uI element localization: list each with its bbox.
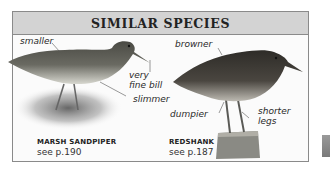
annotation-slimmer: slimmer <box>133 94 169 104</box>
annotation-legs: legs <box>258 116 276 126</box>
annotation-very: very <box>129 70 149 80</box>
species-name-redshank: REDSHANK <box>169 138 214 146</box>
page-reference-redshank: see p.187 <box>169 147 213 157</box>
annotation-smaller: smaller <box>20 36 53 46</box>
species-name-marsh-sandpiper: MARSH SANDPIPER <box>37 138 116 146</box>
annotation-browner: browner <box>175 39 212 49</box>
annotation-shorter: shorter <box>258 106 290 116</box>
annotation-dumpier: dumpier <box>170 109 208 119</box>
adjacent-image-edge <box>322 135 330 157</box>
page-reference-marsh-sandpiper: see p.190 <box>37 147 81 157</box>
annotation-fine-bill: fine bill <box>129 80 162 90</box>
